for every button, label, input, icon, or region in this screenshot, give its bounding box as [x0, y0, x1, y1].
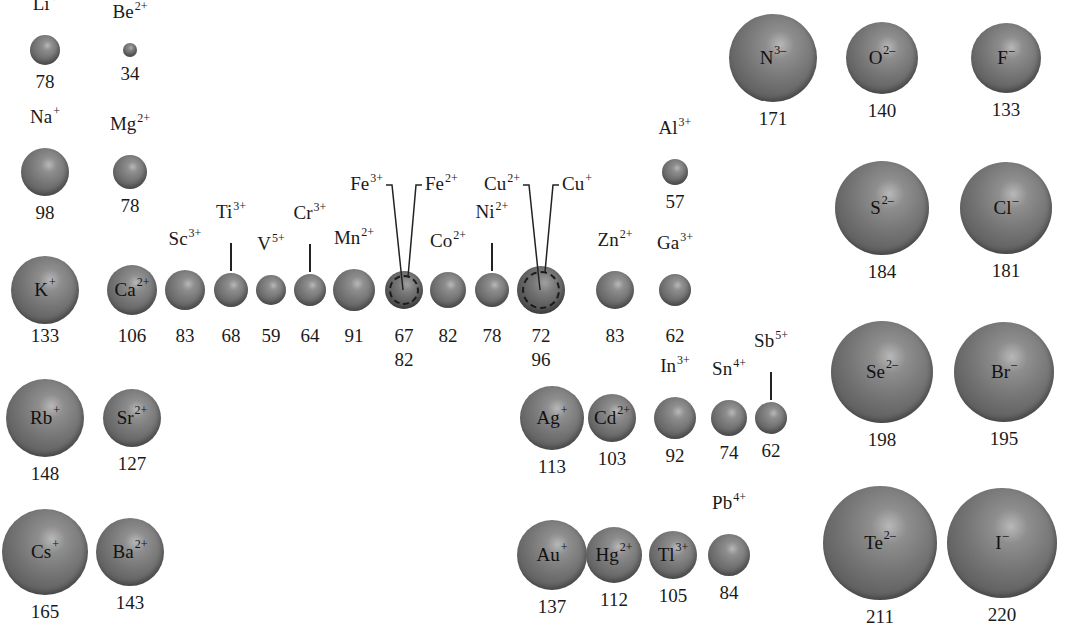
ion-symbol: Cu [484, 173, 506, 194]
ionic-radii-diagram: Li+78Be2+34Na+98Mg2+78Al3+57K+133Ca2+106… [0, 0, 1066, 644]
ion-radius-value: 96 [532, 349, 551, 371]
ion-label-left: Cu2+ [484, 173, 520, 195]
ion-charge: 2+ [507, 171, 520, 185]
ion-charge: + [585, 171, 592, 185]
ion-symbol: Cu [562, 173, 584, 194]
leader-lines [0, 0, 1066, 644]
ion-radius-value: 72 [532, 325, 551, 347]
ion-label-right: Cu+ [562, 173, 592, 195]
